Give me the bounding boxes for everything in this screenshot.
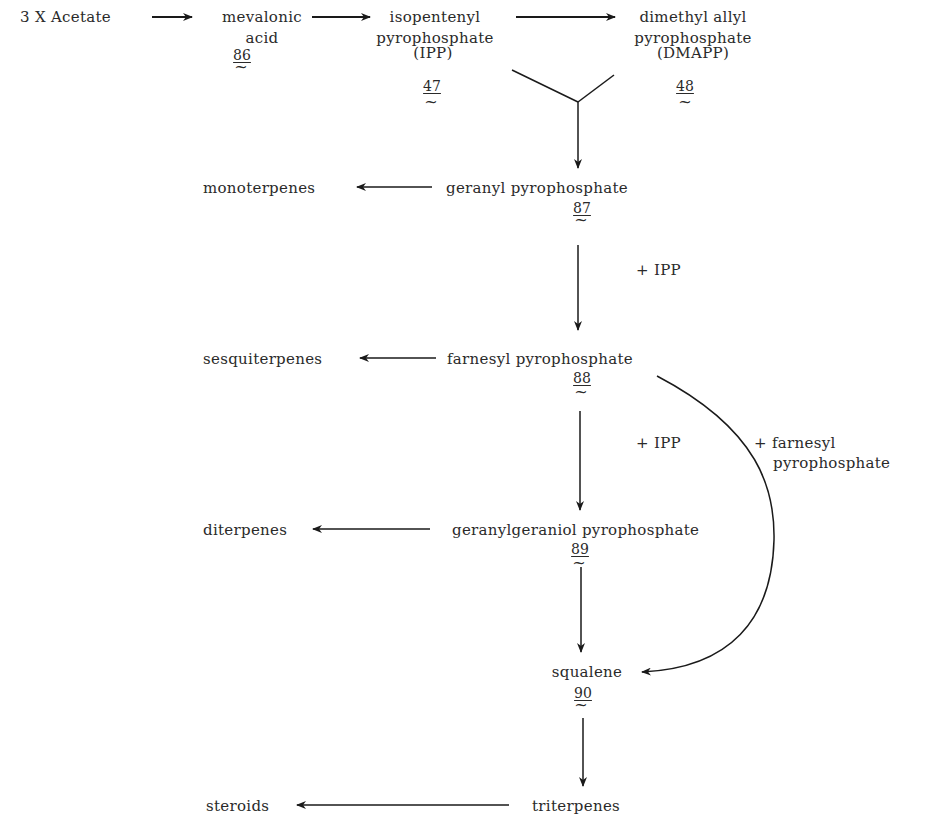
node-monoterpenes: monoterpenes <box>203 180 315 196</box>
node-triterpenes: triterpenes <box>532 798 620 814</box>
node-sesquiterpenes: sesquiterpenes <box>203 351 322 367</box>
tilde-48: ~ <box>678 97 691 107</box>
node-diterpenes: diterpenes <box>203 522 287 538</box>
tilde-86: ~ <box>234 62 247 72</box>
label-plus-ipp-2: + IPP <box>636 435 681 451</box>
tilde-90: ~ <box>574 700 587 710</box>
tilde-88: ~ <box>574 387 587 397</box>
label-plus-farnesyl-line1: + farnesyl <box>754 435 836 451</box>
label-plus-farnesyl-line2: pyrophosphate <box>773 455 890 471</box>
compound-number-47: 47 <box>423 79 441 93</box>
node-mevalonic-line2: acid <box>246 30 279 46</box>
node-steroids: steroids <box>206 798 269 814</box>
node-geranylgeraniol-pyrophosphate: geranylgeraniol pyrophosphate <box>452 522 699 538</box>
node-ipp-line3: (IPP) <box>413 45 452 61</box>
tilde-47: ~ <box>424 97 437 107</box>
tilde-89: ~ <box>572 558 585 568</box>
tilde-87: ~ <box>574 215 587 225</box>
compound-number-48: 48 <box>676 79 694 93</box>
pathway-arrows <box>0 0 938 838</box>
node-acetate: 3 X Acetate <box>20 9 111 25</box>
junction-ipp-branch <box>512 70 578 102</box>
node-farnesyl-pyrophosphate: farnesyl pyrophosphate <box>447 351 633 367</box>
node-squalene: squalene <box>552 664 623 680</box>
label-plus-ipp-1: + IPP <box>636 262 681 278</box>
node-ipp-line1: isopentenyl <box>390 9 481 25</box>
junction-dmapp-branch <box>578 75 614 102</box>
node-dmapp-line1: dimethyl allyl <box>639 9 746 25</box>
node-geranyl-pyrophosphate: geranyl pyrophosphate <box>446 180 628 196</box>
node-mevalonic-line1: mevalonic <box>222 9 302 25</box>
node-dmapp-line3: (DMAPP) <box>657 45 729 61</box>
